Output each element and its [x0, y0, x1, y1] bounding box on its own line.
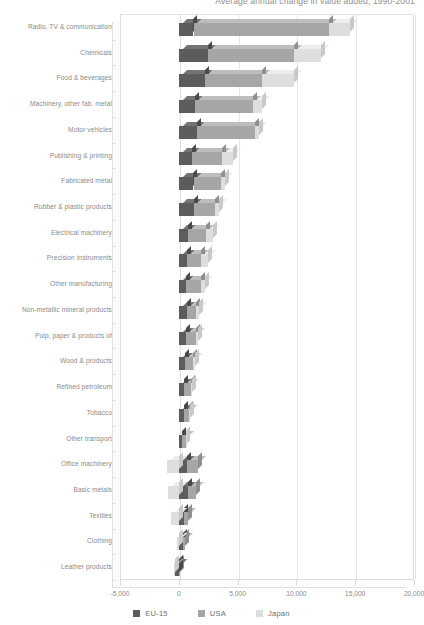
- bar-segment-usa: [194, 23, 329, 36]
- legend-label: Japan: [268, 609, 290, 618]
- y-axis-label: Motor vehicles: [0, 126, 112, 134]
- y-axis-tick: [112, 297, 116, 298]
- x-axis-tick-label: 5,000: [229, 590, 246, 597]
- bar-segment-japan: [186, 435, 187, 448]
- y-axis-label: Machinery, other fab. metal: [0, 100, 112, 108]
- y-axis-label: Wood & products: [0, 357, 112, 365]
- y-axis-tick: [112, 400, 116, 401]
- y-axis-tick: [112, 40, 116, 41]
- bar-group: [120, 379, 414, 393]
- chart-legend: EU-15USAJapan: [0, 609, 423, 618]
- y-axis-tick: [112, 168, 116, 169]
- y-axis-label: Other manufacturing: [0, 280, 112, 288]
- bar-segment-japan-negative: [171, 512, 179, 525]
- bar-segment-usa: [195, 100, 253, 113]
- bar-segment-japan: [221, 177, 225, 190]
- y-axis-tick: [112, 220, 116, 221]
- bar-segment-japan-negative: [168, 486, 179, 499]
- bar-group: [120, 96, 414, 110]
- y-axis-tick: [112, 91, 116, 92]
- bar-segment-japan: [193, 357, 195, 370]
- y-axis-label: Publishing & printing: [0, 152, 112, 160]
- y-axis-label: Pulp, paper & products of: [0, 332, 112, 340]
- y-axis-label: Basic metals: [0, 486, 112, 494]
- x-axis-tick-mark: [238, 580, 239, 585]
- y-axis-label: Electrical machinery: [0, 229, 112, 237]
- bar-segment-usa: [183, 537, 185, 550]
- bar-segment-japan: [222, 152, 233, 165]
- y-axis-label: Precision instruments: [0, 254, 112, 262]
- y-axis-label: Non-metallic mineral products: [0, 306, 112, 314]
- y-axis-category-labels: Radio, TV & communicationChemicalsFood &…: [0, 0, 112, 625]
- legend-item[interactable]: EU-15: [133, 609, 168, 618]
- bar-segment-japan: [189, 409, 190, 422]
- bar-group: [120, 148, 414, 162]
- x-axis-tick-mark: [179, 580, 180, 585]
- legend-swatch-icon: [256, 610, 263, 617]
- bar-group: [120, 431, 414, 445]
- gridline-20000: [415, 15, 416, 579]
- y-axis-tick: [112, 580, 116, 581]
- bar-segment-usa: [194, 177, 221, 190]
- bar-group: [120, 225, 414, 239]
- y-axis-tick: [112, 374, 116, 375]
- x-axis-tick-mark: [414, 580, 415, 585]
- y-axis-tick: [112, 143, 116, 144]
- legend-swatch-icon: [133, 610, 140, 617]
- bar-group: [120, 122, 414, 136]
- bar-group: [120, 19, 414, 33]
- bar-segment-eu-15: [179, 229, 188, 242]
- y-axis-tick: [112, 194, 116, 195]
- bar-group: [120, 199, 414, 213]
- bar-segment-japan: [196, 306, 199, 319]
- bar-segment-eu-15: [179, 280, 186, 293]
- bar-segment-japan: [329, 23, 351, 36]
- legend-label: EU-15: [145, 609, 168, 618]
- x-axis-tick-label: 15,000: [345, 590, 365, 597]
- bar-segment-japan-negative: [177, 537, 179, 550]
- y-axis-tick: [112, 426, 116, 427]
- x-axis-tick-mark: [355, 580, 356, 585]
- x-axis-tick-label: 20,000: [404, 590, 424, 597]
- bar-group: [120, 456, 414, 470]
- bars-layer: [120, 14, 414, 580]
- y-axis-tick: [112, 477, 116, 478]
- bar-group: [120, 353, 414, 367]
- legend-item[interactable]: Japan: [256, 609, 290, 618]
- plot-depth-bottom: [112, 580, 406, 588]
- y-axis-tick: [112, 554, 116, 555]
- bar-segment-japan: [201, 280, 205, 293]
- legend-item[interactable]: USA: [198, 609, 226, 618]
- y-axis-tick: [112, 451, 116, 452]
- y-axis-label: Office machinery: [0, 460, 112, 468]
- chart-title: Average annual change in value added, 19…: [215, 0, 415, 6]
- bar-segment-japan: [201, 254, 208, 267]
- x-axis-tick-mark: [296, 580, 297, 585]
- bar-segment-japan: [255, 126, 259, 139]
- bar-segment-eu-15: [179, 126, 197, 139]
- bar-segment-usa: [187, 460, 198, 473]
- bar-group: [120, 482, 414, 496]
- bar-segment-usa: [187, 306, 196, 319]
- y-axis-label: Other transport: [0, 435, 112, 443]
- bar-segment-usa: [192, 152, 223, 165]
- bar-group: [120, 70, 414, 84]
- bar-segment-usa: [205, 74, 263, 87]
- x-axis-tick-label: 10,000: [286, 590, 306, 597]
- bar-segment-japan: [191, 383, 192, 396]
- y-axis-tick: [112, 117, 116, 118]
- y-axis-label: Fabricated metal: [0, 177, 112, 185]
- y-axis-label: Textiles: [0, 512, 112, 520]
- x-axis-tick-label: 0: [177, 590, 181, 597]
- bar-segment-eu-15: [179, 306, 187, 319]
- bar-group: [120, 276, 414, 290]
- bar-segment-japan: [253, 100, 262, 113]
- bar-segment-usa: [185, 357, 193, 370]
- y-axis-tick: [112, 348, 116, 349]
- bar-segment-usa: [208, 49, 294, 62]
- bar-group: [120, 173, 414, 187]
- bar-segment-usa: [194, 203, 215, 216]
- bar-segment-eu-15: [179, 100, 195, 113]
- bar-segment-usa: [197, 126, 255, 139]
